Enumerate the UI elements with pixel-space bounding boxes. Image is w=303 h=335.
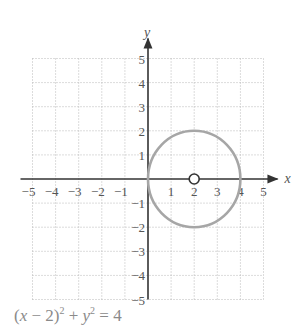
x-tick-label: −3 [68,184,82,199]
x-tick-label: 5 [260,184,267,199]
y-tick-label: −5 [131,293,145,308]
y-tick-label: −3 [131,244,145,259]
x-tick-label: 1 [168,184,175,199]
x-tick-label: −2 [91,184,105,199]
x-tick-label: −1 [114,184,128,199]
center-point [189,174,199,184]
x-tick-label: 2 [191,184,198,199]
x-tick-label: −4 [45,184,59,199]
x-axis-label: x [284,171,292,186]
y-tick-label: −1 [131,196,145,211]
y-tick-label: 4 [139,76,146,91]
y-tick-label: −4 [131,268,145,283]
y-tick-label: 5 [139,52,146,67]
equation-caption: (x − 2)2 + y2 = 4 [14,306,122,326]
axes: xy [21,25,292,300]
y-axis-label: y [142,25,151,40]
x-tick-label: 3 [214,184,221,199]
y-tick-label: 2 [139,124,146,139]
graph: xy −5−4−3−2−112345−5−4−3−2−112345 [0,0,303,335]
y-tick-label: −2 [131,220,145,235]
y-tick-label: 3 [139,100,146,115]
x-tick-label: −5 [22,184,36,199]
y-tick-label: 1 [139,148,146,163]
